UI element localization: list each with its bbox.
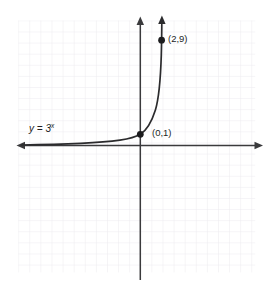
- function-label: y = 3x: [29, 123, 54, 134]
- curve-top-arrowhead: [158, 16, 165, 25]
- point-marker-0-1: [137, 131, 144, 138]
- coordinate-plane: [0, 0, 276, 295]
- function-label-exponent: x: [51, 122, 54, 129]
- point-label-2-9: (2,9): [168, 34, 188, 44]
- x-axis-right-arrowhead: [255, 142, 264, 149]
- graph-canvas: y = 3x (2,9) (0,1): [0, 0, 276, 295]
- function-label-base: y = 3: [29, 123, 51, 134]
- point-label-0-1: (0,1): [152, 128, 172, 138]
- grid-background: [18, 20, 255, 272]
- point-marker-2-9: [158, 37, 165, 44]
